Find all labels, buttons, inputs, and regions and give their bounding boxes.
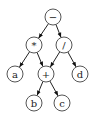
node-label: + — [42, 69, 50, 80]
node-label: a — [12, 69, 18, 80]
node-times: * — [26, 37, 42, 53]
node-label: c — [59, 98, 65, 109]
edges — [19, 24, 76, 96]
node-minus: − — [45, 9, 61, 25]
edge-plus-to-b — [37, 81, 43, 95]
node-label: − — [49, 12, 57, 23]
node-label: b — [31, 98, 37, 109]
edge-minus-to-divide — [56, 24, 61, 37]
node-a: a — [7, 66, 23, 82]
edge-times-to-plus — [37, 52, 43, 66]
edge-divide-to-plus — [50, 52, 60, 67]
node-b: b — [26, 95, 42, 111]
node-plus: + — [38, 66, 54, 82]
node-label: d — [77, 69, 84, 80]
edge-minus-to-times — [38, 24, 48, 39]
node-c: c — [54, 95, 70, 111]
edge-plus-to-c — [50, 81, 58, 96]
edge-times-to-a — [19, 52, 29, 68]
node-d: d — [72, 66, 88, 82]
expression-dag-diagram: −*/a+dbc — [0, 0, 101, 123]
edge-divide-to-d — [68, 52, 76, 67]
node-label: * — [32, 40, 37, 51]
node-divide: / — [56, 37, 72, 53]
